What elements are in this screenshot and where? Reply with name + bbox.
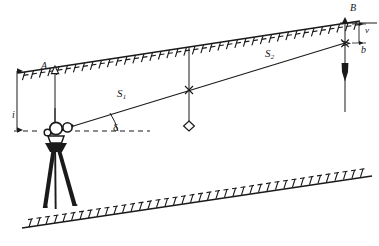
label-vertical-angle: δ bbox=[113, 122, 118, 133]
target-offset-dimension bbox=[352, 24, 366, 43]
label-distance-s1: S1 bbox=[117, 88, 126, 101]
label-station-B: B bbox=[350, 3, 356, 13]
label-instrument-height: i bbox=[12, 110, 15, 120]
station-B-marker bbox=[342, 17, 348, 24]
label-distance-s2: S2 bbox=[265, 48, 274, 61]
label-target-offset: v bbox=[365, 26, 369, 35]
alidade bbox=[50, 122, 62, 134]
line-of-sight bbox=[57, 41, 349, 131]
station-B-assembly bbox=[340, 17, 377, 112]
label-station-A: A bbox=[41, 61, 47, 71]
diagram-canvas: A B S1 S2 i v b δ bbox=[0, 0, 379, 246]
tribrach bbox=[48, 136, 64, 143]
diagram-vector-layer bbox=[0, 0, 379, 246]
label-distance-s2-subscript: 2 bbox=[271, 53, 274, 60]
plumb-bob bbox=[342, 63, 349, 82]
prism-body bbox=[184, 121, 195, 131]
tripod-legs bbox=[43, 150, 77, 209]
theodolite-on-tripod bbox=[43, 108, 78, 209]
label-target-height: b bbox=[361, 45, 366, 55]
label-distance-s1-base: S bbox=[117, 87, 123, 99]
label-distance-s1-subscript: 1 bbox=[123, 93, 126, 100]
vertical-circle bbox=[44, 129, 51, 136]
label-distance-s2-base: S bbox=[265, 47, 271, 59]
